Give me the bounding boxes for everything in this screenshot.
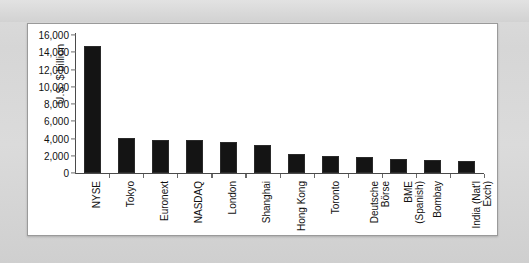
x-tick-label-line: (Spanish)	[414, 181, 425, 237]
x-tick-label-line: Shanghai	[262, 181, 273, 237]
bar	[152, 140, 169, 173]
y-tick-label: 4,000	[44, 133, 69, 144]
y-tick-mark	[71, 69, 76, 70]
x-tick-mark	[109, 174, 110, 178]
x-tick-label-line: Hong Kong	[297, 181, 308, 237]
x-tick-mark	[280, 174, 281, 178]
y-tick-mark	[71, 121, 76, 122]
bar	[84, 46, 101, 173]
y-tick-label: 2,000	[44, 150, 69, 161]
bar	[186, 140, 203, 173]
y-tick-label: 8,000	[44, 99, 69, 110]
x-tick-label-line: Toronto	[331, 181, 342, 237]
x-tick-label-line: India (Nat'l	[472, 181, 483, 237]
x-tick-mark	[382, 174, 383, 178]
x-tick-label-line: Tokyo	[126, 181, 137, 237]
chart-panel: U.S. $ billion 16,00014,00012,00010,0008…	[27, 23, 498, 236]
y-tick-mark	[71, 52, 76, 53]
x-tick-label: DeutscheBörse	[370, 181, 391, 237]
y-tick-mark	[71, 103, 76, 104]
x-tick-label: Toronto	[331, 181, 342, 237]
x-tick-label-line: BME	[404, 181, 415, 237]
x-tick-label-line: Euronext	[160, 181, 171, 237]
bar	[356, 157, 373, 173]
x-tick-label: Tokyo	[126, 181, 137, 237]
y-tick-label: 16,000	[38, 30, 69, 41]
x-tick-label: Euronext	[160, 181, 171, 237]
y-tick-mark	[71, 155, 76, 156]
x-tick-label-line: Bombay	[433, 181, 444, 237]
y-tick-mark	[71, 172, 76, 173]
y-tick-label: 10,000	[38, 81, 69, 92]
x-tick-mark	[143, 174, 144, 178]
x-tick-mark	[416, 174, 417, 178]
x-tick-label: London	[228, 181, 239, 237]
bar	[390, 159, 407, 173]
y-tick-mark	[71, 86, 76, 87]
y-tick-mark	[71, 138, 76, 139]
y-axis-tick-labels: 16,00014,00012,00010,0008,0006,0004,0002…	[28, 24, 72, 235]
bar	[118, 138, 135, 173]
bar	[458, 161, 475, 173]
bar	[254, 145, 271, 173]
bar	[288, 154, 305, 173]
x-tick-label: BME(Spanish)	[404, 181, 425, 237]
x-tick-label-line: NASDAQ	[194, 181, 205, 237]
x-tick-label-line: Börse	[380, 181, 391, 237]
x-tick-label-line: Deutsche	[370, 181, 381, 237]
y-tick-label: 6,000	[44, 116, 69, 127]
x-tick-label: Shanghai	[262, 181, 273, 237]
x-tick-mark	[245, 174, 246, 178]
bar	[220, 142, 237, 173]
x-tick-label: NASDAQ	[194, 181, 205, 237]
y-tick-mark	[71, 34, 76, 35]
x-tick-mark	[177, 174, 178, 178]
x-tick-label: NYSE	[92, 181, 103, 237]
x-tick-label-line: Exch)	[482, 181, 493, 237]
x-tick-mark	[211, 174, 212, 178]
y-tick-label: 14,000	[38, 47, 69, 58]
x-axis-tick-labels: NYSETokyoEuronextNASDAQLondonShanghaiHon…	[75, 179, 484, 235]
x-tick-label: India (Nat'lExch)	[472, 181, 493, 237]
x-tick-label-line: NYSE	[92, 181, 103, 237]
x-tick-mark	[450, 174, 451, 178]
bar	[322, 156, 339, 173]
x-tick-label: Bombay	[433, 181, 444, 237]
y-tick-label: 12,000	[38, 64, 69, 75]
plot-area: U.S. $ billion 16,00014,00012,00010,0008…	[28, 24, 497, 235]
x-tick-mark	[314, 174, 315, 178]
y-tick-label: 0	[63, 168, 69, 179]
x-tick-mark	[348, 174, 349, 178]
bar	[424, 160, 441, 173]
x-tick-mark	[484, 174, 485, 178]
x-tick-label: Hong Kong	[297, 181, 308, 237]
x-tick-label-line: London	[228, 181, 239, 237]
